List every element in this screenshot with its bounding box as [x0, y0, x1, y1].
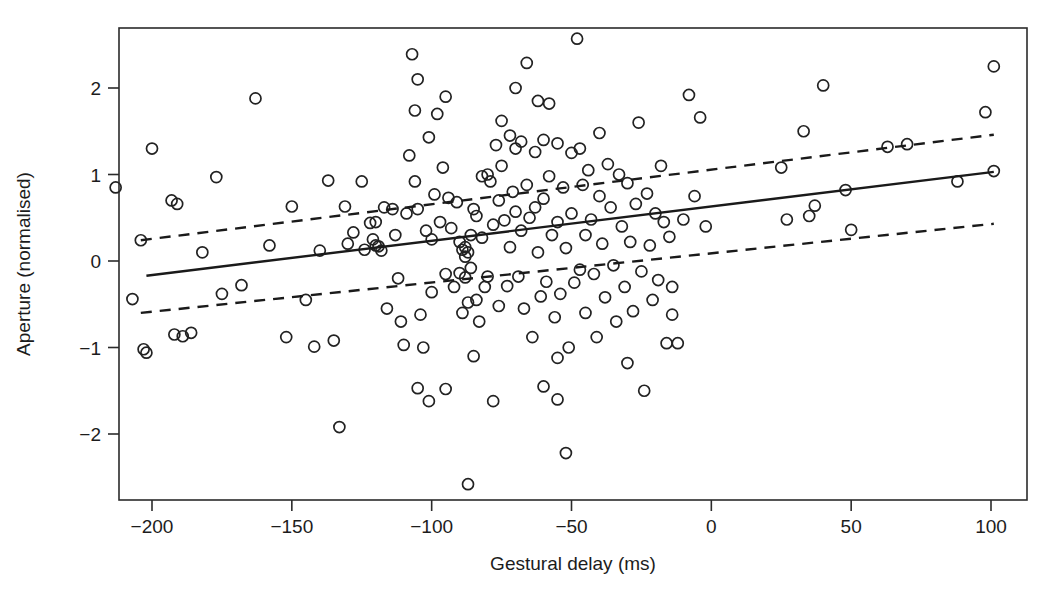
x-axis-label: Gestural delay (ms) [490, 553, 656, 574]
scatter-plot-figure: −200−150−100−50050100 −2−1012 Gestural d… [0, 0, 1050, 605]
y-tick-label: 0 [90, 251, 101, 272]
x-tick-label: −150 [270, 516, 313, 537]
y-tick-label: −1 [79, 338, 101, 359]
y-tick-label: 1 [90, 165, 101, 186]
x-tick-label: −100 [410, 516, 453, 537]
chart-canvas: −200−150−100−50050100 −2−1012 Gestural d… [0, 0, 1050, 605]
y-axis-label: Aperture (normalised) [13, 172, 34, 356]
y-tick-label: −2 [79, 424, 101, 445]
x-tick-label: 0 [706, 516, 717, 537]
x-tick-label: −200 [131, 516, 174, 537]
x-tick-label: 50 [841, 516, 862, 537]
y-tick-label: 2 [90, 78, 101, 99]
x-tick-label: 100 [975, 516, 1007, 537]
x-tick-label: −50 [555, 516, 587, 537]
